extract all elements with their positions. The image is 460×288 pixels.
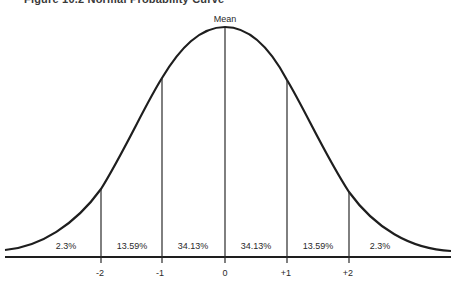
tick-label: +2 [343, 268, 353, 278]
bell-curve [5, 27, 451, 251]
tick-label: -2 [96, 268, 104, 278]
region-label: 13.59% [117, 241, 148, 251]
region-label: 2.3% [370, 241, 391, 251]
normal-curve-chart: Mean 2.3% 13.59% 34.13% 34.13% 13.59% 2.… [0, 0, 460, 288]
region-label: 13.59% [303, 241, 334, 251]
mean-label: Mean [214, 14, 237, 24]
tick-label: 0 [222, 268, 227, 278]
region-label: 2.3% [56, 241, 77, 251]
region-label: 34.13% [178, 241, 209, 251]
tick-label: -1 [156, 268, 164, 278]
region-label: 34.13% [241, 241, 272, 251]
tick-label: +1 [281, 268, 291, 278]
